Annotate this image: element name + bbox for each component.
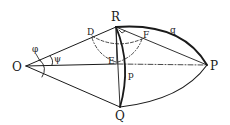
label-p: p — [128, 70, 134, 80]
label-phi: φ — [32, 44, 38, 54]
label-F: F — [143, 30, 149, 40]
label-R: R — [111, 10, 121, 24]
arc-RQ-p — [116, 27, 125, 107]
angle-arc-phi — [40, 60, 45, 77]
spherical-geometry-diagram: O R Q P D E F φ ψ q p — [0, 0, 230, 125]
line-OE — [26, 64, 116, 66]
line-RP — [116, 27, 207, 65]
phi-pointer — [36, 54, 40, 61]
label-E: E — [108, 56, 115, 66]
label-q: q — [170, 25, 176, 35]
label-P: P — [210, 59, 218, 73]
label-psi: ψ — [54, 54, 61, 64]
line-OQ — [26, 66, 120, 107]
line-EP-dashed — [118, 64, 205, 65]
angle-arc-psi — [50, 56, 53, 65]
label-D: D — [87, 27, 94, 37]
label-Q: Q — [115, 109, 125, 123]
label-O: O — [12, 60, 22, 74]
